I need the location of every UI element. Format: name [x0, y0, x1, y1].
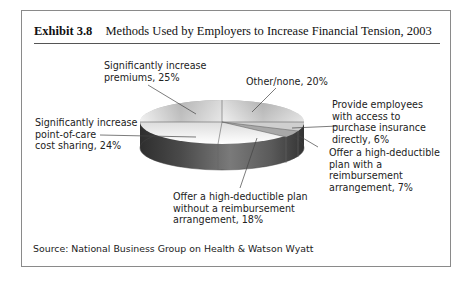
label-hdp-with: Offer a high-deductible plan with a reim… [329, 147, 440, 193]
source-note: Source: National Business Group on Healt… [33, 243, 313, 254]
label-cost-sharing: Significantly increase point-of-care cos… [35, 117, 137, 152]
label-premiums: Significantly increase premiums, 25% [104, 60, 206, 83]
label-purchase: Provide employees with access to purchas… [332, 99, 426, 145]
label-other: Other/none, 20% [246, 76, 328, 88]
label-hdp-without: Offer a high-deductible plan without a r… [173, 191, 308, 226]
